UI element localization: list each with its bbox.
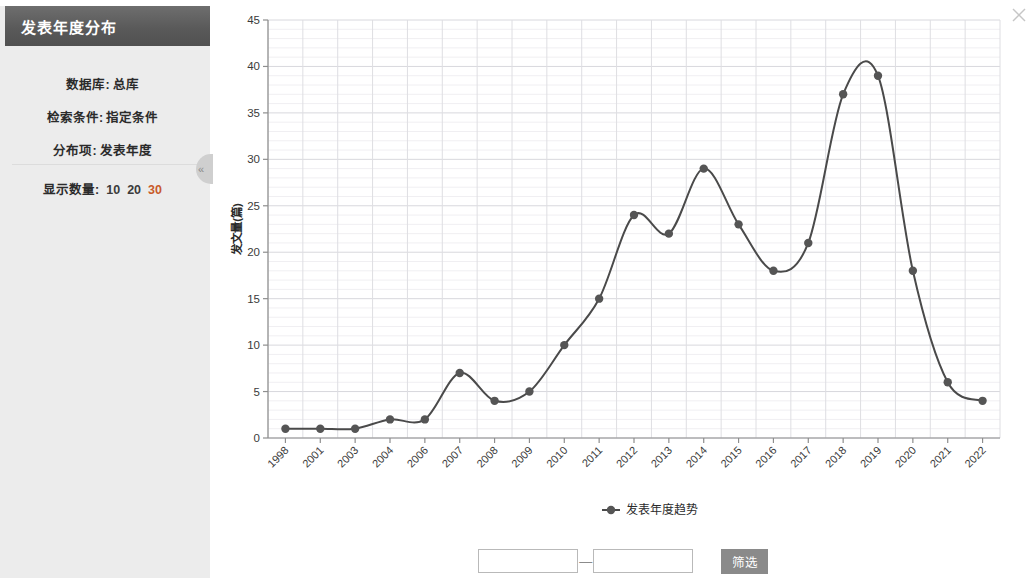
svg-text:0: 0 bbox=[254, 432, 260, 444]
svg-text:40: 40 bbox=[247, 60, 260, 72]
svg-text:2021: 2021 bbox=[927, 444, 953, 470]
svg-text:2012: 2012 bbox=[614, 444, 640, 470]
svg-text:2018: 2018 bbox=[823, 444, 849, 470]
svg-text:25: 25 bbox=[247, 200, 260, 212]
chart-canvas: 051015202530354045发文量(篇)1998200120032004… bbox=[228, 8, 1018, 543]
display-count-label: 显示数量: bbox=[43, 183, 99, 197]
data-point[interactable]: 1998: 1 bbox=[281, 425, 289, 433]
svg-text:2014: 2014 bbox=[683, 444, 709, 470]
svg-text:2008: 2008 bbox=[474, 444, 500, 470]
svg-text:20: 20 bbox=[247, 246, 260, 258]
info-row-distribution-item: 分布项:发表年度 bbox=[0, 140, 205, 159]
info-label-search-condition: 检索条件: bbox=[47, 111, 103, 125]
svg-text:2004: 2004 bbox=[370, 444, 396, 470]
data-point[interactable]: 2019: 39 bbox=[874, 72, 882, 80]
display-count-option-30[interactable]: 30 bbox=[148, 183, 162, 197]
data-point[interactable]: 2014: 29 bbox=[700, 164, 708, 172]
svg-text:10: 10 bbox=[247, 339, 260, 351]
svg-text:5: 5 bbox=[254, 386, 260, 398]
svg-text:2011: 2011 bbox=[579, 444, 604, 469]
data-point[interactable]: 2010: 10 bbox=[560, 341, 568, 349]
year-range-filter-bar: — 筛选 bbox=[478, 546, 768, 576]
data-point[interactable]: 2004: 2 bbox=[386, 415, 394, 423]
info-row-search-condition: 检索条件:指定条件 bbox=[0, 107, 205, 126]
svg-text:2015: 2015 bbox=[718, 444, 744, 470]
svg-text:2007: 2007 bbox=[439, 444, 465, 470]
data-point[interactable]: 2009: 5 bbox=[525, 387, 533, 395]
info-value-search-condition: 指定条件 bbox=[106, 111, 158, 125]
line-chart: 051015202530354045发文量(篇)1998200120032004… bbox=[228, 8, 1018, 543]
svg-text:2020: 2020 bbox=[892, 444, 918, 470]
sidebar-header: 发表年度分布 bbox=[5, 6, 210, 46]
data-point[interactable]: 2012: 24 bbox=[630, 211, 638, 219]
sidebar-divider bbox=[12, 164, 198, 165]
svg-text:2006: 2006 bbox=[404, 444, 430, 470]
data-point[interactable]: 2021: 6 bbox=[944, 378, 952, 386]
chart-popup-window: 发表年度分布 数据库:总库 检索条件:指定条件 分布项:发表年度 显示数量:10… bbox=[0, 0, 1034, 588]
svg-text:1998: 1998 bbox=[265, 444, 291, 470]
svg-text:2013: 2013 bbox=[648, 444, 674, 470]
info-label-distribution-item: 分布项: bbox=[53, 144, 96, 158]
svg-text:2009: 2009 bbox=[509, 444, 535, 470]
svg-text:2019: 2019 bbox=[858, 444, 884, 470]
data-point[interactable]: 2018: 37 bbox=[839, 90, 847, 98]
display-count-option-20[interactable]: 20 bbox=[127, 183, 141, 197]
data-point[interactable]: 2016: 18 bbox=[769, 267, 777, 275]
data-point[interactable]: 2006: 2 bbox=[421, 415, 429, 423]
data-point[interactable]: 2022: 4 bbox=[978, 397, 986, 405]
legend-label: 发表年度趋势 bbox=[626, 502, 698, 517]
svg-text:30: 30 bbox=[247, 153, 260, 165]
data-point[interactable]: 2008: 4 bbox=[490, 397, 498, 405]
data-point[interactable]: 2001: 1 bbox=[316, 425, 324, 433]
svg-text:2003: 2003 bbox=[335, 444, 361, 470]
svg-text:2010: 2010 bbox=[544, 444, 570, 470]
svg-text:2017: 2017 bbox=[788, 444, 814, 470]
svg-text:2001: 2001 bbox=[300, 444, 326, 470]
svg-text:45: 45 bbox=[247, 14, 260, 26]
data-point[interactable]: 2003: 1 bbox=[351, 425, 359, 433]
info-value-database: 总库 bbox=[113, 78, 139, 92]
info-row-database: 数据库:总库 bbox=[0, 74, 205, 93]
data-point[interactable]: 2017: 21 bbox=[804, 239, 812, 247]
range-to-input[interactable] bbox=[593, 549, 693, 573]
display-count-row: 显示数量:102030 bbox=[0, 179, 205, 198]
data-point[interactable]: 2011: 15 bbox=[595, 294, 603, 302]
filter-button[interactable]: 筛选 bbox=[721, 549, 768, 574]
data-point[interactable]: 2015: 23 bbox=[734, 220, 742, 228]
svg-text:2022: 2022 bbox=[962, 444, 988, 470]
svg-text:发文量(篇): 发文量(篇) bbox=[230, 203, 243, 256]
page-title: 发表年度分布 bbox=[21, 16, 117, 37]
data-point[interactable]: 2007: 7 bbox=[456, 369, 464, 377]
svg-text:2016: 2016 bbox=[753, 444, 779, 470]
chevron-left-double-icon: « bbox=[198, 164, 204, 175]
svg-text:35: 35 bbox=[247, 107, 260, 119]
info-label-database: 数据库: bbox=[66, 78, 109, 92]
data-point[interactable]: 2013: 22 bbox=[665, 229, 673, 237]
svg-text:15: 15 bbox=[247, 293, 260, 305]
data-point[interactable]: 2020: 18 bbox=[909, 267, 917, 275]
display-count-option-10[interactable]: 10 bbox=[106, 183, 120, 197]
sidebar-panel: 发表年度分布 数据库:总库 检索条件:指定条件 分布项:发表年度 显示数量:10… bbox=[0, 6, 210, 578]
info-value-distribution-item: 发表年度 bbox=[100, 144, 152, 158]
range-from-input[interactable] bbox=[478, 549, 578, 573]
range-separator: — bbox=[578, 554, 593, 569]
